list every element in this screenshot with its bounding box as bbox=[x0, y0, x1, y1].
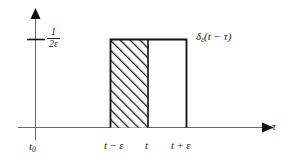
origin-label-subscript: 0 bbox=[32, 145, 36, 154]
fraction-denominator: 2ε bbox=[47, 39, 60, 50]
figure-canvas bbox=[0, 0, 295, 163]
y-axis-value-label: 1 2ε bbox=[47, 27, 60, 49]
fraction-numerator: 1 bbox=[47, 27, 60, 39]
pulse-shaded-region bbox=[111, 40, 149, 128]
delta-function-figure: τ t0 1 2ε t − ε t t + ε δε(t − τ) bbox=[0, 0, 295, 163]
x-axis-label: τ bbox=[272, 121, 276, 132]
y-axis-arrowhead bbox=[31, 8, 41, 19]
x-tick-label-t-plus-epsilon: t + ε bbox=[171, 141, 190, 152]
x-tick-label-t-minus-epsilon: t − ε bbox=[104, 141, 123, 152]
origin-label: t0 bbox=[29, 141, 36, 154]
y-axis bbox=[27, 8, 45, 140]
function-label: δε(t − τ) bbox=[196, 31, 231, 44]
fraction: 1 2ε bbox=[47, 27, 60, 49]
x-tick-label-t: t bbox=[145, 141, 148, 152]
function-label-argument: (t − τ) bbox=[204, 30, 231, 42]
